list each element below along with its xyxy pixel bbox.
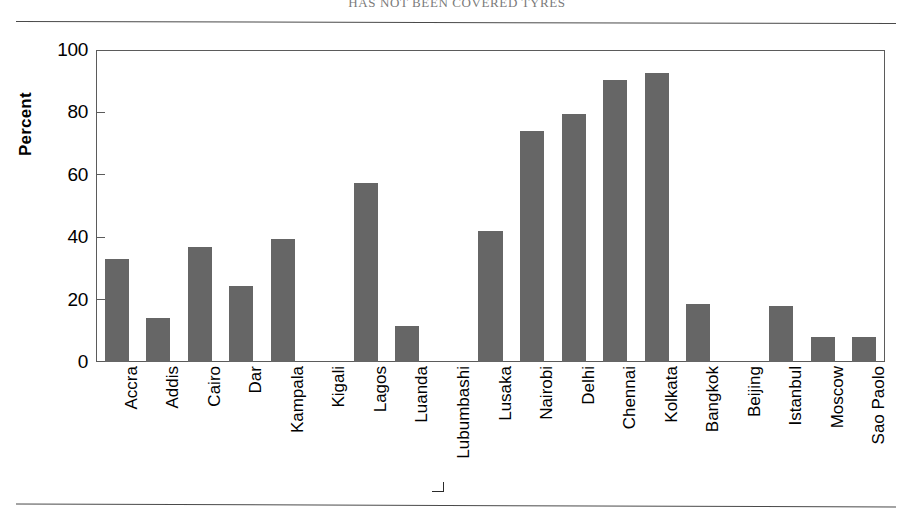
y-axis-label: Percent (16, 92, 36, 156)
x-tick-label: Dar (247, 366, 264, 393)
x-tick-label: Lagos (372, 366, 389, 412)
x-tick-label: Kigali (330, 366, 347, 408)
bar-chart: Percent 020406080100 AccraAddisCairoDarK… (0, 0, 914, 500)
x-tick-label: Kolkata (663, 366, 680, 423)
x-tick-label: Lubumbashi (455, 366, 472, 459)
x-tick-label: Lusaka (497, 366, 514, 421)
bar (478, 231, 502, 362)
bar (769, 306, 793, 362)
bar (105, 259, 129, 362)
x-tick-label: Istanbul (787, 366, 804, 426)
y-tick-label: 40 (34, 227, 88, 246)
x-tick-label: Kampala (289, 366, 306, 433)
x-tick-label: Moscow (829, 366, 846, 428)
bar (645, 73, 669, 362)
x-tick-label: Nairobi (538, 366, 555, 420)
x-axis-tick-labels: AccraAddisCairoDarKampalaKigaliLagosLuan… (96, 366, 885, 496)
bar (852, 337, 876, 362)
x-tick-label: Luanda (413, 366, 430, 423)
bar (395, 326, 419, 362)
bar (146, 318, 170, 362)
bar (520, 131, 544, 362)
bar (188, 247, 212, 362)
x-tick-label: Sao Paolo (870, 366, 887, 444)
x-tick-label: Addis (164, 366, 181, 409)
y-tick-label: 100 (34, 40, 88, 59)
bar (354, 183, 378, 362)
x-tick-label: Cairo (206, 366, 223, 407)
y-tick-label: 80 (34, 102, 88, 121)
y-tick-label: 60 (34, 165, 88, 184)
bottom-divider-rule (16, 504, 896, 508)
x-tick-label: Chennai (621, 366, 638, 429)
bar (562, 114, 586, 362)
x-tick-label: Bangkok (704, 366, 721, 432)
y-tick-label: 20 (34, 290, 88, 309)
y-tick-label: 0 (34, 352, 88, 371)
bar (603, 80, 627, 362)
bar (229, 286, 253, 362)
bar (686, 304, 710, 362)
x-tick-label: Delhi (580, 366, 597, 405)
x-tick-label: Accra (123, 366, 140, 409)
bar (271, 239, 295, 362)
x-tick-label: Beijing (746, 366, 763, 417)
bars-container (96, 50, 885, 362)
bar (811, 337, 835, 362)
page-root: HAS NOT BEEN COVERED TYRES Percent 02040… (0, 0, 914, 524)
